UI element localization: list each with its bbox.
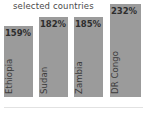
bar-group-2: 185% Zambia: [74, 17, 103, 97]
bar-group-0: 159% Ethiopia: [4, 26, 33, 97]
bar-group-3: 232% DR Congo: [110, 4, 141, 97]
bar-chart: selected countries 159% Ethiopia 182% Su…: [0, 0, 147, 116]
bar-value-zambia: 185%: [75, 19, 101, 29]
bar-dr-congo[interactable]: 232% DR Congo: [110, 4, 141, 97]
bar-category-label-sudan: Sudan: [39, 67, 49, 94]
plot-area: 159% Ethiopia 182% Sudan 185% Zambia: [0, 0, 147, 107]
bar-zambia[interactable]: 185% Zambia: [74, 17, 103, 97]
baseline-rule: [4, 107, 143, 108]
bar-value-dr-congo: 232%: [111, 6, 137, 16]
bar-value-sudan: 182%: [40, 19, 66, 29]
bar-category-label-zambia: Zambia: [74, 61, 84, 94]
bar-ethiopia[interactable]: 159% Ethiopia: [4, 26, 33, 97]
bar-category-label-dr-congo: DR Congo: [110, 51, 120, 94]
baseline-band: [0, 107, 147, 116]
bar-group-1: 182% Sudan: [39, 17, 68, 97]
bar-category-label-ethiopia: Ethiopia: [4, 59, 14, 94]
bar-value-ethiopia: 159%: [5, 28, 31, 38]
bar-sudan[interactable]: 182% Sudan: [39, 17, 68, 97]
